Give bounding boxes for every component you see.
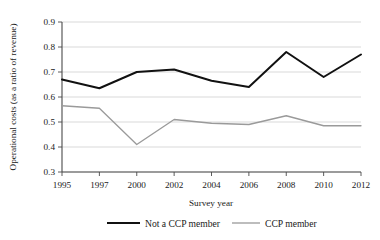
x-tick-label: 2000 xyxy=(128,180,147,190)
y-tick-label: 0.9 xyxy=(44,17,56,27)
y-tick-label: 0.8 xyxy=(44,42,56,52)
chart-canvas: 0.30.40.50.60.70.80.9 199519972000200220… xyxy=(0,0,380,240)
x-tick-label: 2006 xyxy=(240,180,259,190)
y-tick-label: 0.5 xyxy=(44,117,56,127)
series-line-not-a-ccp-member xyxy=(62,52,361,88)
x-tick-label: 2004 xyxy=(202,180,221,190)
x-tick-label: 2002 xyxy=(165,180,184,190)
legend-label-not-a-ccp-member: Not a CCP member xyxy=(145,218,221,229)
series-line-ccp-member xyxy=(62,106,361,145)
x-tick-label: 2010 xyxy=(314,180,333,190)
x-axis-ticks-group: 199519972000200220042006200820102012 xyxy=(53,172,371,190)
x-tick-label: 2012 xyxy=(352,180,371,190)
y-axis-ticks-group: 0.30.40.50.60.70.80.9 xyxy=(44,17,62,177)
y-axis-title: Operational costs (as a ratio of revenue… xyxy=(8,24,18,171)
line-chart: 0.30.40.50.60.70.80.9 199519972000200220… xyxy=(0,0,380,240)
legend: Not a CCP member CCP member xyxy=(107,218,317,229)
x-tick-label: 1997 xyxy=(90,180,109,190)
y-tick-label: 0.3 xyxy=(44,167,56,177)
gridlines-group xyxy=(62,22,361,172)
y-tick-label: 0.6 xyxy=(44,92,56,102)
legend-label-ccp-member: CCP member xyxy=(265,218,317,229)
x-axis-title: Survey year xyxy=(189,198,233,208)
x-tick-label: 1995 xyxy=(53,180,72,190)
x-tick-label: 2008 xyxy=(277,180,296,190)
y-tick-label: 0.7 xyxy=(44,67,56,77)
y-tick-label: 0.4 xyxy=(44,142,56,152)
